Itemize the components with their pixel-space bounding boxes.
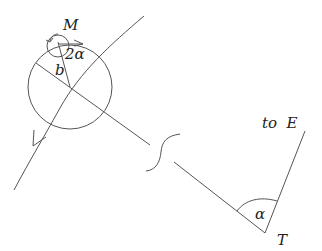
label-2-alpha: 2α (64, 45, 85, 63)
line-to-E (265, 131, 305, 233)
break-mark (146, 134, 180, 171)
label-to-E: to E (262, 114, 298, 132)
line-to-T (174, 162, 265, 233)
label-M: M (62, 16, 79, 34)
line-to-break (36, 63, 150, 145)
label-T: T (277, 231, 288, 249)
orbit-diagram: M 2α b to E α T (0, 0, 322, 251)
label-b: b (55, 61, 65, 79)
label-alpha: α (255, 205, 265, 223)
